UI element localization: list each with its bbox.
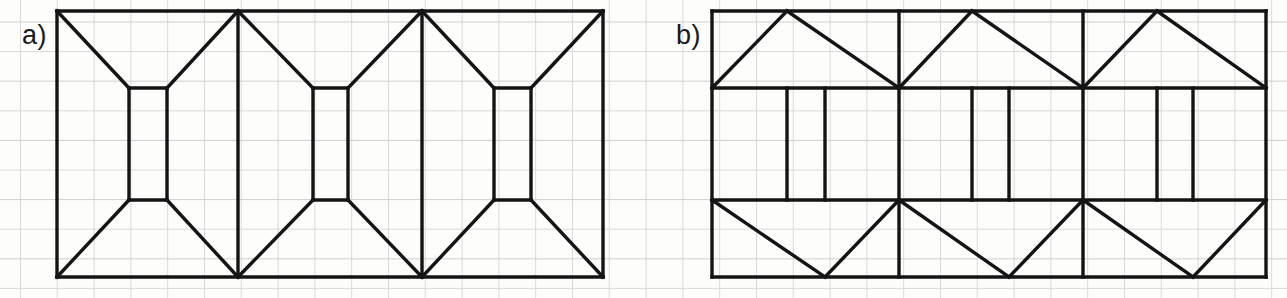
figure-drawings xyxy=(0,0,1287,298)
figure-b xyxy=(712,11,1266,277)
figure-stroke xyxy=(57,11,129,88)
figure-stroke xyxy=(712,200,825,277)
figure-stroke xyxy=(899,200,1009,277)
figure-stroke xyxy=(787,11,899,88)
figure-stroke xyxy=(1083,200,1193,277)
figure-stroke xyxy=(238,11,313,88)
figure-b-label: b) xyxy=(676,22,701,49)
grid-paper-page: a) b) xyxy=(0,0,1287,298)
figure-stroke xyxy=(825,200,899,277)
figure-stroke xyxy=(348,11,422,88)
figure-stroke xyxy=(167,200,238,277)
figure-stroke xyxy=(1009,200,1083,277)
figure-stroke xyxy=(57,200,129,277)
figure-stroke xyxy=(348,200,422,277)
figure-a-label: a) xyxy=(22,22,47,49)
figure-stroke xyxy=(1193,200,1266,277)
figure-stroke xyxy=(167,11,238,88)
figure-a xyxy=(57,11,603,277)
figure-stroke xyxy=(972,11,1083,88)
figure-stroke xyxy=(899,11,972,88)
figure-stroke xyxy=(712,11,787,88)
figure-stroke xyxy=(1157,11,1266,88)
figure-stroke xyxy=(531,200,603,277)
figure-stroke xyxy=(422,200,494,277)
figure-stroke xyxy=(1083,11,1157,88)
figure-stroke xyxy=(422,11,494,88)
figure-stroke xyxy=(238,200,313,277)
figure-stroke xyxy=(531,11,603,88)
